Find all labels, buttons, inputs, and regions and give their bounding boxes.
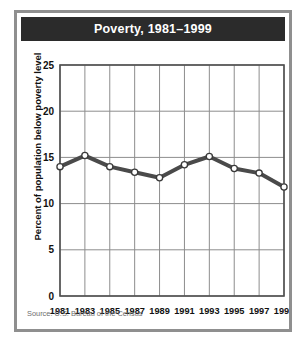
page-title: Poverty, 1981–1999 bbox=[94, 22, 212, 36]
data-point-marker bbox=[156, 175, 162, 181]
plot-area-wrapper: Percent of population below poverty leve… bbox=[17, 43, 289, 331]
data-point-marker bbox=[256, 170, 262, 176]
data-point-marker bbox=[206, 153, 212, 159]
line-chart-svg: 0510152025198119831985198719891991199319… bbox=[17, 43, 289, 331]
chart-card: Poverty, 1981–1999 Percent of population… bbox=[14, 10, 292, 332]
chart-title-bar: Poverty, 1981–1999 bbox=[21, 17, 285, 41]
y-tick-label: 0 bbox=[48, 291, 54, 302]
x-tick-label: 1997 bbox=[249, 306, 269, 316]
y-tick-label: 5 bbox=[48, 244, 54, 255]
y-tick-label: 20 bbox=[43, 106, 55, 117]
source-note: Source: U.S. Bureau of the Census bbox=[27, 309, 142, 318]
x-tick-label: 1995 bbox=[224, 306, 244, 316]
data-point-marker bbox=[181, 162, 187, 168]
plot-background bbox=[60, 65, 284, 296]
x-tick-label: 1993 bbox=[199, 306, 219, 316]
y-tick-label: 15 bbox=[43, 152, 55, 163]
y-tick-label: 10 bbox=[43, 198, 55, 209]
x-tick-label: 1991 bbox=[174, 306, 194, 316]
data-point-marker bbox=[57, 164, 63, 170]
x-tick-label: 1999 bbox=[274, 306, 289, 316]
data-point-marker bbox=[281, 184, 287, 190]
x-tick-label: 1989 bbox=[149, 306, 169, 316]
data-point-marker bbox=[132, 169, 138, 175]
data-point-marker bbox=[107, 164, 113, 170]
data-point-marker bbox=[82, 152, 88, 158]
y-tick-label: 25 bbox=[43, 60, 55, 71]
data-point-marker bbox=[231, 165, 237, 171]
